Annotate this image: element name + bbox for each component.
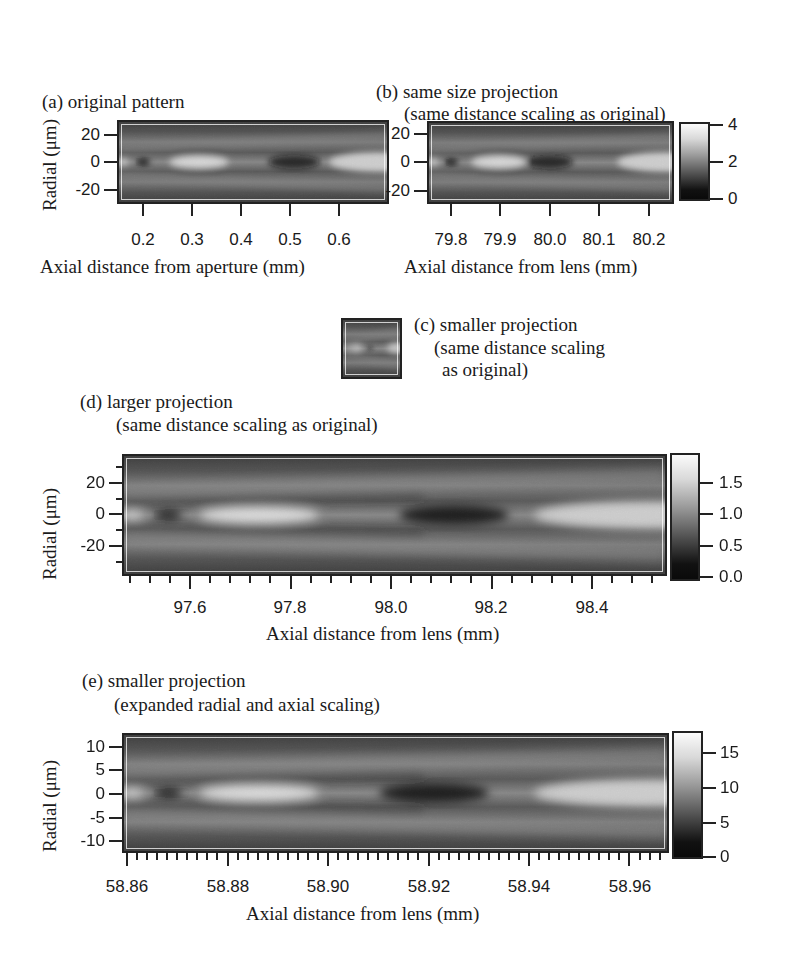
xtick-minor: [257, 853, 259, 860]
panel-a-heatmap: [117, 120, 389, 204]
panel-d-cbar-tick: 1.0: [719, 505, 743, 522]
panel-b-ytick: 20: [378, 125, 410, 142]
xtick-mark: [428, 853, 430, 866]
cbar-tick-mark: [710, 161, 723, 163]
xtick-minor: [508, 853, 510, 860]
panel-e-ylabel: Radial (μm): [40, 760, 59, 852]
panel-d-heatmap: [122, 454, 667, 576]
panel-b-ytick: -20: [378, 182, 410, 199]
ytick-mark: [414, 133, 427, 135]
xtick-mark: [390, 576, 392, 589]
panel-d-cbar-tick: 1.5: [719, 474, 743, 491]
xtick-minor: [631, 576, 633, 583]
xtick-minor: [176, 853, 178, 860]
xtick-minor: [417, 853, 419, 860]
xtick-minor: [470, 576, 472, 583]
ytick-minor: [116, 561, 122, 563]
xtick-minor: [370, 576, 372, 583]
xtick-minor: [478, 853, 480, 860]
panel-e-xtick: 58.94: [499, 878, 559, 895]
xtick-minor: [410, 576, 412, 583]
panel-c-title: (c) smaller projection: [414, 315, 578, 334]
xtick-minor: [310, 576, 312, 583]
xtick-minor: [618, 853, 620, 860]
panel-e-field: [124, 735, 667, 851]
xtick-mark: [450, 204, 452, 216]
panel-a-xtick: 0.3: [172, 231, 212, 248]
ytick-minor: [116, 498, 122, 500]
panel-d-xlabel: Axial distance from lens (mm): [266, 624, 499, 643]
xtick-minor: [186, 853, 188, 860]
xtick-mark: [289, 204, 291, 216]
xtick-minor: [608, 853, 610, 860]
ytick-mark: [109, 840, 122, 842]
xtick-minor: [149, 576, 151, 583]
panel-d-subtitle: (same distance scaling as original): [116, 415, 378, 434]
xtick-minor: [367, 853, 369, 860]
panel-b-xtick: 80.2: [624, 231, 674, 248]
cbar-tick-mark: [710, 124, 723, 126]
xtick-minor: [357, 853, 359, 860]
panel-a-field: [119, 122, 387, 202]
panel-b-cbar-tick: 4: [728, 116, 737, 133]
panel-d-cbar-tick: 0.5: [719, 537, 743, 554]
panel-e-ytick: 10: [70, 738, 105, 755]
ytick-minor: [116, 466, 122, 468]
xtick-minor: [146, 853, 148, 860]
cbar-tick-mark: [700, 576, 713, 578]
panel-b-field: [429, 123, 672, 202]
xtick-minor: [578, 853, 580, 860]
xtick-minor: [659, 853, 661, 860]
panel-d-field: [124, 456, 665, 574]
ytick-mark: [414, 161, 427, 163]
panel-e-xlabel: Axial distance from lens (mm): [246, 904, 479, 923]
xtick-minor: [458, 853, 460, 860]
panel-a-xtick: 0.6: [319, 231, 359, 248]
ytick-mark: [109, 545, 122, 547]
panel-e-xtick: 58.92: [399, 878, 459, 895]
xtick-minor: [287, 853, 289, 860]
panel-a-title: (a) original pattern: [42, 92, 184, 111]
xtick-minor: [277, 853, 279, 860]
panel-e-xtick: 58.88: [198, 878, 258, 895]
xtick-minor: [548, 853, 550, 860]
panel-e-cbar-tick: 15: [720, 744, 739, 761]
panel-c-subtitle-line1: (same distance scaling: [434, 338, 605, 357]
xtick-mark: [327, 853, 329, 866]
xtick-minor: [317, 853, 319, 860]
panel-b-xtick: 79.9: [475, 231, 525, 248]
panel-b-xtick: 80.1: [574, 231, 624, 248]
xtick-minor: [531, 576, 533, 583]
panel-e-xtick: 58.86: [97, 878, 157, 895]
xtick-minor: [249, 576, 251, 583]
panel-b-xlabel: Axial distance from lens (mm): [404, 257, 637, 276]
ytick-minor: [116, 529, 122, 531]
panel-d-ylabel: Radial (μm): [40, 488, 59, 580]
xtick-minor: [571, 576, 573, 583]
xtick-minor: [651, 576, 653, 583]
xtick-minor: [156, 853, 158, 860]
panel-e-cbar-tick: 10: [720, 779, 739, 796]
xtick-minor: [196, 853, 198, 860]
xtick-minor: [347, 853, 349, 860]
panel-b-cbar-tick: 2: [728, 153, 737, 170]
cbar-tick-mark: [700, 482, 713, 484]
panel-a-xtick: 0.4: [221, 231, 261, 248]
xtick-minor: [267, 853, 269, 860]
panel-d-ytick: -20: [70, 537, 105, 554]
ytick-mark: [109, 769, 122, 771]
xtick-minor: [611, 576, 613, 583]
ytick-mark: [104, 134, 117, 136]
xtick-minor: [430, 576, 432, 583]
xtick-minor: [448, 853, 450, 860]
ytick-mark: [109, 746, 122, 748]
xtick-minor: [558, 853, 560, 860]
panel-b-heatmap: [427, 121, 674, 204]
ytick-mark: [109, 513, 122, 515]
xtick-mark: [240, 204, 242, 216]
panel-e-heatmap: [122, 733, 669, 853]
xtick-minor: [269, 576, 271, 583]
panel-a-xtick: 0.5: [270, 231, 310, 248]
ytick-mark: [104, 189, 117, 191]
panel-e-ytick: 0: [70, 785, 105, 802]
